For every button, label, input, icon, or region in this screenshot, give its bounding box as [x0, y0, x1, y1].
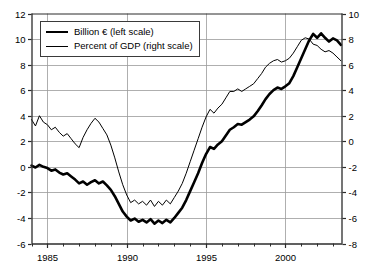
series-line-billion-eur — [32, 33, 341, 223]
legend-entry-billion-eur: Billion € (left scale) — [46, 25, 193, 39]
legend-entry-percent-gdp: Percent of GDP (right scale) — [46, 39, 193, 53]
legend-swatch-thin-line-icon — [46, 46, 68, 47]
chart-legend: Billion € (left scale) Percent of GDP (r… — [40, 21, 200, 57]
y-axis-tick-label-left: 6 — [0, 86, 26, 96]
legend-label-percent-gdp: Percent of GDP (right scale) — [74, 41, 193, 51]
x-axis-tick-label: 1985 — [23, 253, 73, 263]
y-axis-tick-label-right: 10 — [349, 10, 360, 20]
y-axis-tick-label-left: 10 — [0, 35, 26, 45]
y-axis-tick-label-right: 8 — [349, 35, 354, 45]
y-axis-tick-label-left: 2 — [0, 137, 26, 147]
y-axis-tick-label-right: 6 — [349, 61, 354, 71]
y-axis-tick-label-left: 0 — [0, 163, 26, 173]
y-axis-tick-label-left: -6 — [0, 240, 26, 250]
y-axis-tick-label-right: 0 — [349, 137, 354, 147]
y-axis-tick-label-left: -4 — [0, 214, 26, 224]
x-axis-tick-label: 1995 — [182, 253, 232, 263]
y-axis-tick-label-left: 4 — [0, 112, 26, 122]
y-axis-tick-label-left: -2 — [0, 188, 26, 198]
y-axis-tick-label-right: 2 — [349, 112, 354, 122]
y-axis-tick-label-left: 12 — [0, 10, 26, 20]
y-axis-tick-label-right: -2 — [349, 163, 357, 173]
y-axis-tick-label-right: -6 — [349, 214, 357, 224]
x-axis-tick-label: 2000 — [261, 253, 311, 263]
y-axis-tick-label-left: 8 — [0, 61, 26, 71]
legend-label-billion-eur: Billion € (left scale) — [74, 27, 154, 37]
y-axis-tick-label-right: 4 — [349, 86, 354, 96]
y-axis-tick-label-right: -8 — [349, 240, 357, 250]
y-axis-tick-label-right: -4 — [349, 188, 357, 198]
chart-container: -6-4-2024681012-8-6-4-202468101985199019… — [0, 0, 372, 278]
legend-swatch-thick-line-icon — [46, 31, 68, 33]
x-axis-tick-label: 1990 — [103, 253, 153, 263]
